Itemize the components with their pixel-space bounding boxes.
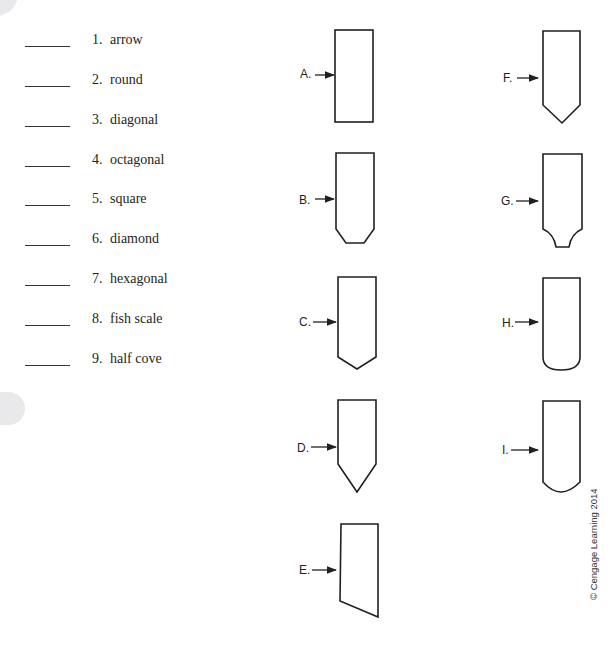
figure-i-shape-icon <box>0 0 615 646</box>
copyright-credit: © Cengage Learning 2014 <box>588 488 599 600</box>
